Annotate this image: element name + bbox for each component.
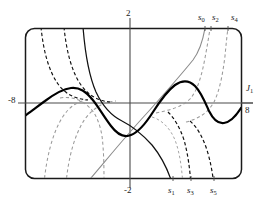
label-s1-letter: s xyxy=(168,185,172,195)
label-s4-letter: s xyxy=(231,12,235,22)
label-s0-index: 0 xyxy=(202,16,205,23)
label-s4-index: 4 xyxy=(235,16,238,23)
axis-label-bottom-center: -2 xyxy=(124,186,132,195)
label-s1-index: 1 xyxy=(172,189,175,196)
label-s5-letter: s xyxy=(210,185,214,195)
curve-s3 xyxy=(168,112,191,186)
axis-label-left: -8 xyxy=(8,96,16,105)
label-s2-index: 2 xyxy=(216,16,219,23)
axis-label-top-center: 2 xyxy=(126,9,131,18)
curve-s-mirror-c xyxy=(60,97,104,186)
label-s2: s2 xyxy=(212,13,219,22)
label-s3: s3 xyxy=(187,186,194,195)
curve-s-mirror-dark-b xyxy=(64,27,110,102)
curve-s-mirror-b xyxy=(66,101,116,184)
label-s2-letter: s xyxy=(212,12,216,22)
label-s5-index: 5 xyxy=(214,189,217,196)
label-s0-letter: s xyxy=(198,12,202,22)
curve-s0 xyxy=(84,28,205,186)
axis-label-right: 8 xyxy=(245,106,250,115)
curve-s-mirror-a xyxy=(44,99,92,184)
bessel-function-figure: 2 -2 -8 8 J1 s0 s2 s4 s1 s3 s5 xyxy=(0,0,267,205)
label-s4: s4 xyxy=(231,13,238,22)
label-s1: s1 xyxy=(168,186,175,195)
curve-label-j1-index: 1 xyxy=(250,87,253,94)
label-s3-letter: s xyxy=(187,185,191,195)
label-s3-index: 3 xyxy=(191,189,194,196)
label-s0: s0 xyxy=(198,13,205,22)
label-s5: s5 xyxy=(210,186,217,195)
plot-canvas xyxy=(0,0,267,205)
curve-label-j1: J1 xyxy=(246,84,253,93)
curve-s5 xyxy=(190,121,214,186)
